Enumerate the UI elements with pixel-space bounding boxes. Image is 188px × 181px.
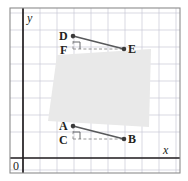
point-label-B: B [128, 133, 136, 145]
point-label-A: A [59, 120, 68, 132]
point-label-C: C [59, 134, 68, 146]
point-dot-A [71, 124, 76, 129]
point-dot-E [122, 47, 127, 52]
y-axis-label: y [27, 12, 32, 24]
x-axis-label: x [163, 144, 168, 156]
origin-label: 0 [13, 160, 19, 172]
point-label-F: F [60, 44, 67, 56]
point-dot-B [122, 137, 127, 142]
point-dot-D [71, 34, 76, 39]
coordinate-grid-figure: D E F A B C y x 0 [0, 0, 188, 181]
point-label-D: D [59, 30, 68, 42]
figure-canvas [0, 0, 188, 181]
point-label-E: E [128, 43, 136, 55]
rotated-square-shading [48, 49, 151, 127]
